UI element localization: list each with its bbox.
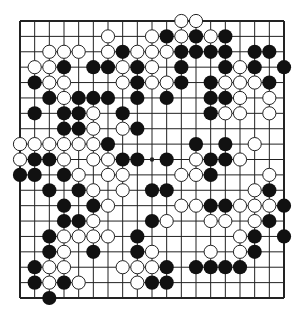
black-stone bbox=[160, 152, 174, 166]
black-stone bbox=[160, 29, 174, 43]
white-stone bbox=[87, 230, 100, 243]
white-stone bbox=[57, 91, 70, 104]
white-stone bbox=[87, 214, 100, 227]
black-stone bbox=[160, 183, 174, 197]
black-stone bbox=[13, 168, 27, 182]
black-stone bbox=[204, 152, 218, 166]
black-stone bbox=[116, 106, 130, 120]
black-stone bbox=[204, 45, 218, 59]
black-stone bbox=[248, 60, 262, 74]
black-stone bbox=[204, 91, 218, 105]
black-stone bbox=[42, 152, 56, 166]
black-stone bbox=[42, 183, 56, 197]
white-stone bbox=[219, 76, 232, 89]
go-board bbox=[0, 0, 305, 316]
white-stone bbox=[43, 76, 56, 89]
white-stone bbox=[233, 91, 246, 104]
white-stone bbox=[233, 107, 246, 120]
white-stone bbox=[116, 184, 129, 197]
black-stone bbox=[174, 60, 188, 74]
black-stone bbox=[277, 60, 291, 74]
black-stone bbox=[42, 229, 56, 243]
white-stone bbox=[116, 76, 129, 89]
black-stone bbox=[28, 106, 42, 120]
white-stone bbox=[43, 276, 56, 289]
black-stone bbox=[130, 60, 144, 74]
white-stone bbox=[233, 61, 246, 74]
white-stone bbox=[145, 30, 158, 43]
white-stone bbox=[13, 153, 26, 166]
white-stone bbox=[43, 45, 56, 58]
black-stone bbox=[86, 199, 100, 213]
white-stone bbox=[204, 214, 217, 227]
white-stone bbox=[248, 138, 261, 151]
black-stone bbox=[42, 91, 56, 105]
white-stone bbox=[204, 30, 217, 43]
black-stone bbox=[218, 60, 232, 74]
white-stone bbox=[248, 214, 261, 227]
star-points bbox=[150, 157, 154, 161]
white-stone bbox=[263, 168, 276, 181]
star-point bbox=[150, 157, 154, 161]
white-stone bbox=[87, 138, 100, 151]
black-stone bbox=[101, 137, 115, 151]
black-stone bbox=[116, 45, 130, 59]
white-stone bbox=[248, 76, 261, 89]
black-stone bbox=[57, 60, 71, 74]
black-stone bbox=[57, 106, 71, 120]
black-stone bbox=[218, 137, 232, 151]
white-stone bbox=[101, 30, 114, 43]
white-stone bbox=[175, 30, 188, 43]
white-stone bbox=[72, 45, 85, 58]
black-stone bbox=[204, 106, 218, 120]
white-stone bbox=[101, 199, 114, 212]
white-stone bbox=[204, 245, 217, 258]
white-stone bbox=[72, 168, 85, 181]
black-stone bbox=[86, 60, 100, 74]
black-stone bbox=[248, 229, 262, 243]
black-stone bbox=[277, 199, 291, 213]
white-stone bbox=[72, 138, 85, 151]
black-stone bbox=[218, 29, 232, 43]
black-stone bbox=[57, 199, 71, 213]
black-stone bbox=[189, 29, 203, 43]
white-stone bbox=[189, 199, 202, 212]
white-stone bbox=[175, 199, 188, 212]
black-stone bbox=[204, 75, 218, 89]
black-stone bbox=[86, 245, 100, 259]
white-stone bbox=[43, 261, 56, 274]
white-stone bbox=[160, 45, 173, 58]
white-stone bbox=[101, 168, 114, 181]
white-stone bbox=[145, 245, 158, 258]
white-stone bbox=[189, 14, 202, 27]
black-stone bbox=[101, 91, 115, 105]
white-stone bbox=[160, 76, 173, 89]
white-stone bbox=[116, 168, 129, 181]
black-stone bbox=[72, 122, 86, 136]
white-stone bbox=[116, 61, 129, 74]
white-stone bbox=[13, 138, 26, 151]
black-stone bbox=[57, 168, 71, 182]
white-stone bbox=[233, 245, 246, 258]
black-stone bbox=[145, 214, 159, 228]
black-stone bbox=[248, 45, 262, 59]
black-stone bbox=[130, 245, 144, 259]
white-stone bbox=[175, 14, 188, 27]
black-stone bbox=[160, 91, 174, 105]
white-stone bbox=[219, 107, 232, 120]
black-stone bbox=[72, 214, 86, 228]
black-stone bbox=[262, 183, 276, 197]
black-stone bbox=[248, 245, 262, 259]
black-stone bbox=[130, 229, 144, 243]
white-stone bbox=[72, 276, 85, 289]
black-stone bbox=[28, 276, 42, 290]
white-stone bbox=[175, 168, 188, 181]
black-stone bbox=[28, 152, 42, 166]
white-stone bbox=[87, 153, 100, 166]
white-stone bbox=[160, 214, 173, 227]
white-stone bbox=[131, 261, 144, 274]
white-stone bbox=[233, 199, 246, 212]
black-stone bbox=[130, 91, 144, 105]
white-stone bbox=[145, 76, 158, 89]
white-stone bbox=[189, 168, 202, 181]
